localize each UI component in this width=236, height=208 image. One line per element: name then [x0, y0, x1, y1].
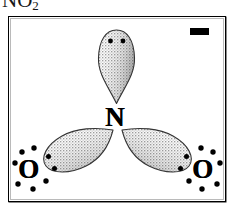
electron-dot: [30, 186, 35, 191]
electron-dot: [43, 178, 48, 183]
electron-dot: [214, 181, 219, 186]
electron-dot: [46, 154, 51, 159]
lone-pair-lobe-top: [98, 30, 134, 104]
electron-dot: [217, 160, 222, 165]
electron-dot: [198, 145, 203, 150]
bonding-lobe-lower-left: [44, 128, 113, 172]
figure-container: NO2: [0, 0, 236, 208]
electron-dot: [178, 166, 183, 171]
atom-label-oxygen-right: O: [192, 156, 213, 183]
electron-dot: [184, 154, 189, 159]
electron-dot: [199, 186, 204, 191]
electron-dot: [121, 39, 126, 44]
electron-dot: [52, 166, 57, 171]
electron-dot: [12, 160, 17, 165]
negative-charge-icon: [190, 28, 209, 35]
bonding-lobe-lower-right: [122, 128, 191, 172]
electron-dot: [31, 145, 36, 150]
electron-dot: [108, 39, 113, 44]
atom-label-nitrogen: N: [105, 104, 125, 131]
electron-dot: [186, 178, 191, 183]
atom-label-oxygen-left: O: [18, 156, 39, 183]
